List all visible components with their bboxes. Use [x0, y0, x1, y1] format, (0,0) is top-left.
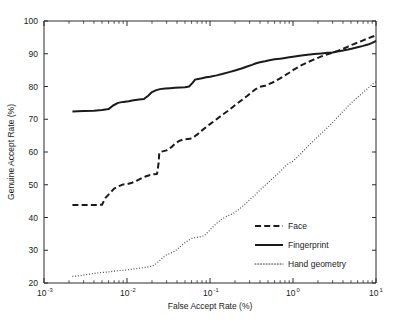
y-tick-label-40: 40	[29, 213, 39, 223]
x-tick-exp-4: 1	[380, 287, 383, 293]
roc-chart-figure: 203040506070809010010-310-210-1100101Fal…	[0, 0, 393, 323]
legend-label-face: Face	[288, 221, 307, 231]
y-tick-label-60: 60	[29, 147, 39, 157]
legend-label-fingerprint: Fingerprint	[288, 240, 329, 250]
roc-chart-canvas: 203040506070809010010-310-210-1100101Fal…	[0, 0, 393, 323]
y-tick-label-100: 100	[24, 16, 38, 26]
x-tick-base-2: 10	[203, 288, 213, 298]
x-tick-label-0: 10-3	[37, 287, 53, 298]
y-tick-label-30: 30	[29, 245, 39, 255]
x-tick-label-4: 101	[369, 287, 383, 298]
x-tick-base-3: 10	[286, 288, 296, 298]
y-tick-label-70: 70	[29, 114, 39, 124]
x-tick-base-4: 10	[369, 288, 379, 298]
x-tick-label-1: 10-2	[120, 287, 136, 298]
x-tick-label-3: 100	[286, 287, 300, 298]
x-tick-exp-0: -3	[48, 287, 53, 293]
series-line-fingerprint	[72, 41, 376, 111]
y-axis-title: Genuine Accept Rate (%)	[6, 104, 16, 200]
y-tick-label-80: 80	[29, 82, 39, 92]
series-line-face	[72, 35, 376, 205]
y-tick-label-20: 20	[29, 278, 39, 288]
x-tick-base-0: 10	[37, 288, 47, 298]
x-axis-title: False Accept Rate (%)	[168, 301, 253, 311]
x-tick-exp-1: -2	[131, 287, 136, 293]
y-tick-label-90: 90	[29, 49, 39, 59]
x-tick-base-1: 10	[120, 288, 130, 298]
x-tick-exp-2: -1	[214, 287, 219, 293]
series-line-hand-geometry	[72, 82, 376, 277]
x-tick-exp-3: 0	[297, 287, 300, 293]
y-tick-label-50: 50	[29, 180, 39, 190]
legend-label-hand-geometry: Hand geometry	[288, 259, 347, 269]
x-tick-label-2: 10-1	[203, 287, 219, 298]
